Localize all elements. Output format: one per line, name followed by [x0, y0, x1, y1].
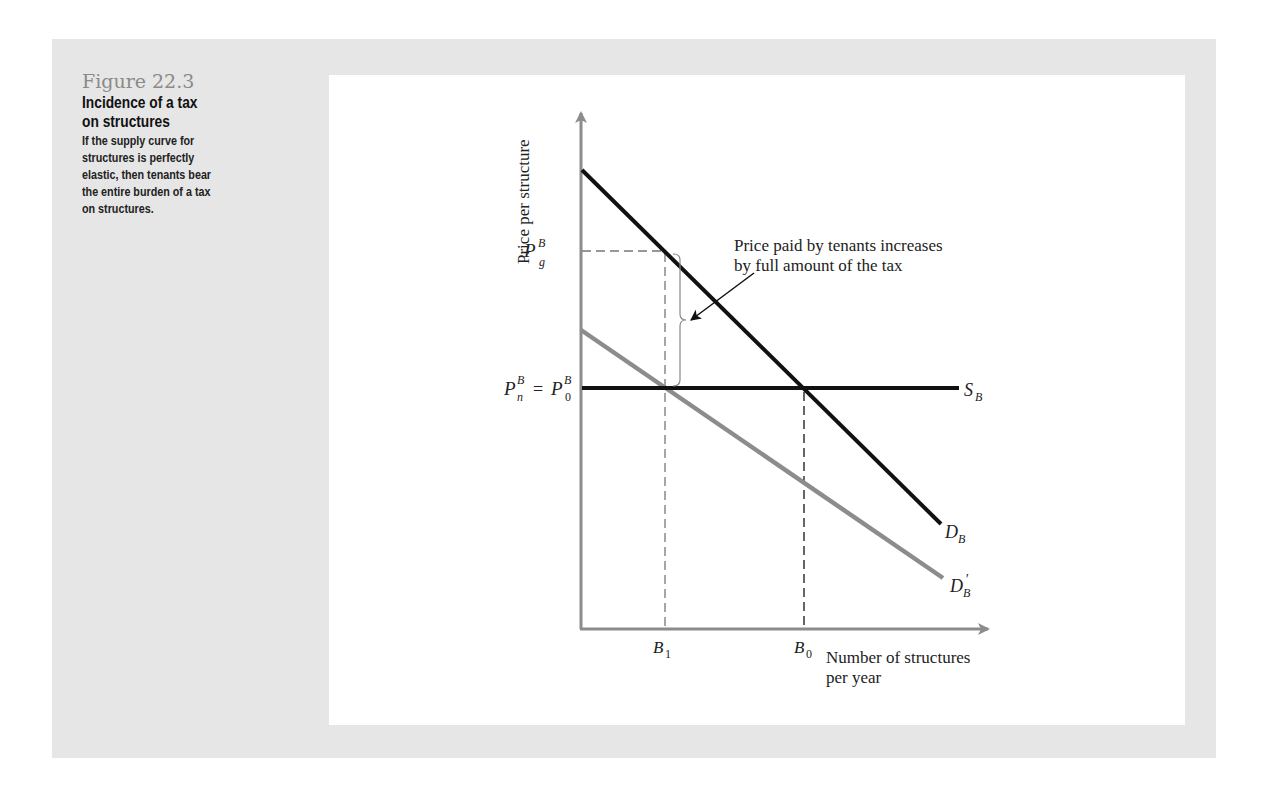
- svg-text:P: P: [550, 378, 563, 399]
- svg-text:′: ′: [965, 572, 969, 587]
- annotation-text: Price paid by tenants increases: [734, 236, 943, 255]
- demand-shifted-curve-label: D B ′: [949, 572, 971, 600]
- svg-text:D: D: [949, 576, 963, 596]
- svg-text:B: B: [794, 638, 805, 657]
- svg-text:n: n: [517, 390, 523, 404]
- svg-text:B: B: [517, 373, 525, 387]
- svg-text:B: B: [538, 236, 546, 250]
- svg-text:B: B: [975, 390, 983, 404]
- demand-curve-label: D B: [944, 522, 966, 546]
- svg-text:B: B: [564, 373, 572, 387]
- svg-text:D: D: [944, 522, 958, 542]
- svg-text:g: g: [539, 255, 545, 269]
- pn-tick-label: P B n = P B 0: [503, 373, 572, 404]
- annotation-arrow: [691, 273, 754, 320]
- svg-text:0: 0: [806, 647, 812, 661]
- demand-shifted-curve: [581, 330, 943, 578]
- b0-tick-label: B 0: [794, 638, 812, 661]
- svg-text:P: P: [503, 378, 516, 399]
- svg-text:B: B: [653, 638, 664, 657]
- svg-text:P: P: [523, 240, 536, 261]
- demand-curve: [582, 170, 941, 524]
- svg-text:B: B: [958, 532, 966, 546]
- x-axis-label: per year: [826, 668, 882, 687]
- svg-text:1: 1: [665, 647, 671, 661]
- svg-text:B: B: [963, 586, 971, 600]
- x-axis-label: Number of structures: [826, 648, 970, 667]
- svg-text:S: S: [964, 380, 973, 400]
- svg-text:=: =: [533, 379, 543, 399]
- annotation-text: by full amount of the tax: [734, 256, 903, 275]
- tax-brace: [673, 254, 686, 386]
- svg-text:0: 0: [565, 390, 571, 404]
- b1-tick-label: B 1: [653, 638, 671, 661]
- supply-curve-label: S B: [964, 380, 983, 404]
- supply-demand-chart: Price paid by tenants increases by full …: [0, 0, 1263, 787]
